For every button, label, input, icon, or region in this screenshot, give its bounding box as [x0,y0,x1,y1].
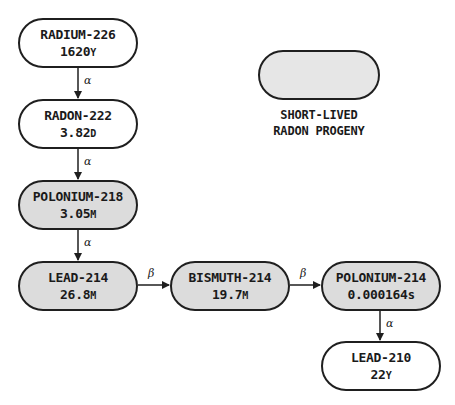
node-lead-210: LEAD-210 22Y [321,341,441,391]
legend-swatch [258,50,380,100]
half-life: 3.82D [60,124,96,142]
isotope-name: RADON-222 [44,107,112,124]
half-life: 22Y [371,366,392,384]
isotope-name: POLONIUM-214 [336,269,426,286]
node-lead-214: LEAD-214 26.8M [18,261,138,311]
node-polonium-214: POLONIUM-214 0.000164s [321,261,441,311]
isotope-name: LEAD-214 [48,269,108,286]
legend-line-2: RADON PROGENY [240,123,398,139]
half-life: 1620Y [60,43,96,61]
half-life: 19.7M [212,286,248,304]
node-radium-226: RADIUM-226 1620Y [18,18,138,68]
beta-label-1: β [148,267,154,280]
isotope-name: RADIUM-226 [40,26,115,43]
alpha-label-3: α [84,236,91,249]
isotope-name: LEAD-210 [351,349,411,366]
node-bismuth-214: BISMUTH-214 19.7M [170,261,290,311]
isotope-name: POLONIUM-218 [33,188,123,205]
half-life: 0.000164s [347,286,414,304]
node-radon-222: RADON-222 3.82D [18,99,138,149]
half-life: 3.05M [60,205,96,223]
alpha-label-1: α [84,74,91,87]
beta-label-2: β [300,267,306,280]
alpha-label-4: α [386,317,393,330]
legend-line-1: SHORT-LIVED [240,107,398,123]
node-polonium-218: POLONIUM-218 3.05M [18,180,138,230]
alpha-label-2: α [84,155,91,168]
legend-label: SHORT-LIVED RADON PROGENY [240,107,398,139]
isotope-name: BISMUTH-214 [189,269,272,286]
half-life: 26.8M [60,286,96,304]
